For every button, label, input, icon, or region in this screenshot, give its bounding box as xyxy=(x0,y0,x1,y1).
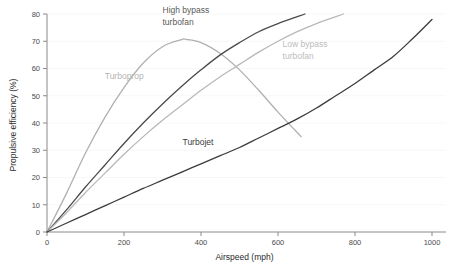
y-tick-label: 80 xyxy=(32,10,40,19)
y-tick-label: 70 xyxy=(32,37,40,46)
gridlines xyxy=(47,14,446,205)
y-tick-label: 30 xyxy=(32,146,40,155)
series-label-low-bypass-turbofan-line2: turbofan xyxy=(283,51,314,61)
y-axis-title: Propulsive efficiency (%) xyxy=(8,78,18,171)
chart-canvas: 01020304050607080 02004006008001000 Airs… xyxy=(0,0,451,268)
curve-turbojet xyxy=(47,19,432,232)
y-tick-label: 50 xyxy=(32,92,40,101)
x-axis-ticks: 02004006008001000 xyxy=(45,232,440,247)
y-tick-label: 60 xyxy=(32,64,40,73)
x-axis-title: Airspeed (mph) xyxy=(215,252,273,262)
y-tick-label: 40 xyxy=(32,119,40,128)
x-tick-label: 400 xyxy=(195,238,208,247)
x-tick-label: 200 xyxy=(118,238,131,247)
series-label-high-bypass-turbofan-line1: High bypass xyxy=(163,5,210,15)
x-tick-label: 800 xyxy=(349,238,362,247)
propulsive-efficiency-chart: 01020304050607080 02004006008001000 Airs… xyxy=(0,0,451,268)
series-label-high-bypass-turbofan-line2: turbofan xyxy=(163,17,194,27)
x-tick-label: 0 xyxy=(45,238,49,247)
series-label-turbojet: Turbojet xyxy=(183,137,215,147)
x-tick-label: 1000 xyxy=(424,238,441,247)
y-tick-label: 0 xyxy=(36,228,40,237)
series-label-low-bypass-turbofan-line1: Low bypass xyxy=(283,39,328,49)
y-tick-label: 20 xyxy=(32,173,40,182)
x-tick-label: 600 xyxy=(272,238,285,247)
y-tick-label: 10 xyxy=(32,201,40,210)
y-axis-ticks: 01020304050607080 xyxy=(32,10,47,237)
series-label-turboprop: Turboprop xyxy=(105,71,144,81)
